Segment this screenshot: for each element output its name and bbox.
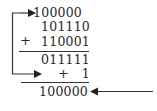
final-result: 100000 <box>28 85 88 99</box>
result-pointer-arrow <box>90 88 153 96</box>
operand-a: 101110 <box>30 20 90 34</box>
binary-addition-diagram: 100000 101110 + 110001 011111 + 1 100000 <box>0 0 157 111</box>
sum-rule-2 <box>21 82 89 83</box>
partial-sum: 011111 <box>30 53 90 67</box>
carry-value: 100000 <box>22 6 82 20</box>
operand-b: 110001 <box>30 35 90 49</box>
arrowhead-left-icon <box>90 88 98 96</box>
end-around-carry-digit: 1 <box>30 67 90 81</box>
